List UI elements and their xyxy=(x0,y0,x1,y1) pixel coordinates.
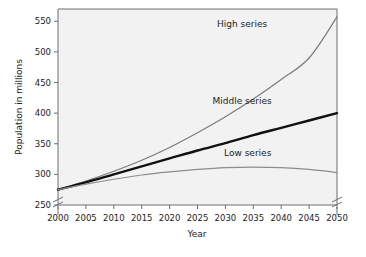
y-tick-label: 450 xyxy=(35,78,51,88)
series-label-low-series: Low series xyxy=(224,148,272,158)
x-tick-label: 2020 xyxy=(159,213,181,223)
x-tick-label: 2015 xyxy=(131,213,153,223)
y-tick-label: 300 xyxy=(35,169,51,179)
chart-canvas: 250300350400450500550 200020052010201520… xyxy=(0,0,366,257)
x-tick-label: 2035 xyxy=(242,213,264,223)
series-label-middle-series: Middle series xyxy=(213,96,273,106)
x-axis-tick-labels: 2000200520102015202020252030203520402045… xyxy=(47,213,348,223)
x-tick-label: 2045 xyxy=(298,213,320,223)
population-projection-chart: 250300350400450500550 200020052010201520… xyxy=(0,0,366,257)
x-tick-label: 2025 xyxy=(187,213,209,223)
y-tick-label: 250 xyxy=(35,200,51,210)
x-tick-label: 2040 xyxy=(270,213,292,223)
x-tick-label: 2005 xyxy=(75,213,97,223)
y-tick-label: 350 xyxy=(35,139,51,149)
x-tick-label: 2010 xyxy=(103,213,125,223)
x-axis-title: Year xyxy=(186,229,206,239)
series-label-high-series: High series xyxy=(217,19,268,29)
y-tick-label: 500 xyxy=(35,47,51,57)
plot-area-background xyxy=(58,9,337,205)
x-tick-label: 2000 xyxy=(47,213,69,223)
y-tick-label: 550 xyxy=(35,16,51,26)
x-tick-label: 2050 xyxy=(326,213,348,223)
x-tick-label: 2030 xyxy=(215,213,237,223)
y-axis-title: Population in millions xyxy=(14,59,24,155)
y-tick-label: 400 xyxy=(35,108,51,118)
